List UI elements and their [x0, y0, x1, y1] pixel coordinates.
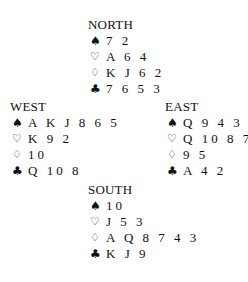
hand-title-west: WEST [10, 99, 120, 115]
north-hand: NORTH ♠ 7 2 ♡ A 6 4 ♢ K J 6 2 ♣ 7 6 5 3 [88, 17, 164, 97]
south-clubs-line: ♣ K J 9 [88, 246, 199, 262]
south-spades-line: ♠ 10 [88, 198, 199, 214]
east-diamonds-cards: 9 5 [183, 147, 208, 163]
club-icon: ♣ [90, 81, 104, 97]
west-hand: WEST ♠ A K J 8 6 5 ♡ K 9 2 ♢ 10 ♣ Q 10 8 [10, 99, 120, 179]
south-spades-cards: 10 [106, 198, 125, 214]
spade-icon: ♠ [90, 33, 104, 49]
heart-icon: ♡ [90, 214, 104, 230]
north-hearts-cards: A 6 4 [106, 49, 149, 65]
north-spades-cards: 7 2 [106, 33, 131, 49]
east-hearts-line: ♡ Q 10 8 7 [165, 131, 248, 147]
south-diamonds-line: ♢ A Q 8 7 4 3 [88, 230, 199, 246]
spade-icon: ♠ [167, 115, 181, 131]
north-clubs-cards: 7 6 5 3 [106, 81, 163, 97]
heart-icon: ♡ [90, 49, 104, 65]
diamond-icon: ♢ [12, 147, 26, 163]
heart-icon: ♡ [12, 131, 26, 147]
east-clubs-cards: A 4 2 [183, 163, 226, 179]
north-diamonds-cards: K J 6 2 [106, 65, 164, 81]
east-clubs-line: ♣ A 4 2 [165, 163, 248, 179]
club-icon: ♣ [167, 163, 181, 179]
club-icon: ♣ [90, 246, 104, 262]
west-hearts-cards: K 9 2 [28, 131, 72, 147]
north-clubs-line: ♣ 7 6 5 3 [88, 81, 164, 97]
north-diamonds-line: ♢ K J 6 2 [88, 65, 164, 81]
diamond-icon: ♢ [90, 230, 104, 246]
east-spades-cards: Q 9 4 3 [183, 115, 243, 131]
hand-title-east: EAST [165, 99, 248, 115]
club-icon: ♣ [12, 163, 26, 179]
east-diamonds-line: ♢ 9 5 [165, 147, 248, 163]
west-diamonds-cards: 10 [28, 147, 47, 163]
west-clubs-cards: Q 10 8 [28, 163, 81, 179]
east-spades-line: ♠ Q 9 4 3 [165, 115, 248, 131]
north-hearts-line: ♡ A 6 4 [88, 49, 164, 65]
diamond-icon: ♢ [167, 147, 181, 163]
east-hearts-cards: Q 10 8 7 [183, 131, 248, 147]
west-spades-cards: A K J 8 6 5 [28, 115, 120, 131]
east-hand: EAST ♠ Q 9 4 3 ♡ Q 10 8 7 ♢ 9 5 ♣ A 4 2 [165, 99, 248, 179]
north-spades-line: ♠ 7 2 [88, 33, 164, 49]
west-hearts-line: ♡ K 9 2 [10, 131, 120, 147]
diamond-icon: ♢ [90, 65, 104, 81]
west-clubs-line: ♣ Q 10 8 [10, 163, 120, 179]
west-diamonds-line: ♢ 10 [10, 147, 120, 163]
spade-icon: ♠ [90, 198, 104, 214]
spade-icon: ♠ [12, 115, 26, 131]
south-hand: SOUTH ♠ 10 ♡ J 5 3 ♢ A Q 8 7 4 3 ♣ K J 9 [88, 182, 199, 262]
hand-title-south: SOUTH [88, 182, 199, 198]
hand-title-north: NORTH [88, 17, 164, 33]
west-spades-line: ♠ A K J 8 6 5 [10, 115, 120, 131]
south-hearts-line: ♡ J 5 3 [88, 214, 199, 230]
heart-icon: ♡ [167, 131, 181, 147]
south-diamonds-cards: A Q 8 7 4 3 [106, 230, 199, 246]
south-hearts-cards: J 5 3 [106, 214, 146, 230]
south-clubs-cards: K J 9 [106, 246, 148, 262]
